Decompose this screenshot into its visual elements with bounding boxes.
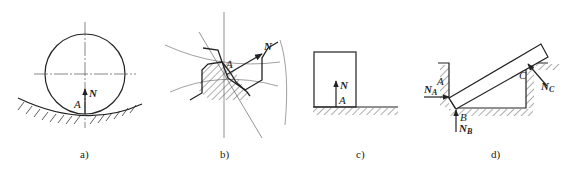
panel-d: NA A NB B NC C d) [423,44,560,161]
point-a-label: A [436,75,444,87]
force-na-label: NA [423,83,438,97]
pitch-circle-upper [165,45,280,64]
panel-a: N A a) [18,22,142,161]
panel-b: N A b) [165,12,287,161]
gear-arc-right [280,40,287,125]
caption-d: d) [491,148,501,161]
force-nb-label: NB [458,122,473,136]
surface-hatching [313,108,398,115]
figure-canvas: N A a) N A b) N A c) NA A [0,0,568,176]
point-label: A [73,98,81,110]
force-label: N [88,87,98,99]
point-c-label: C [519,69,527,81]
force-label: N [263,40,273,52]
right-top-hatching [536,64,560,70]
right-wall-hatching [526,66,534,108]
panel-c: N A c) [313,52,398,161]
point-label: A [225,58,233,70]
point-label: A [338,94,346,106]
force-label: N [339,79,349,91]
force-nc-label: NC [540,80,555,94]
caption-a: a) [80,148,89,161]
block [314,52,356,107]
point-b-label: B [460,111,467,123]
caption-b: b) [220,148,230,161]
caption-c: c) [356,148,365,161]
